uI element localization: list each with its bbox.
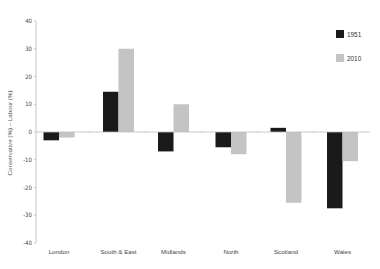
bar-chart: 403020100-10-20-30-40 LondonSouth & East… [0, 0, 380, 269]
bar-1951 [158, 132, 174, 151]
x-category-label: Midlands [161, 248, 186, 255]
bar-1951 [216, 132, 232, 147]
bar-1951 [271, 128, 287, 132]
bar-2010 [119, 49, 135, 132]
bar-group-south-east [103, 49, 134, 132]
y-tick-label: 10 [25, 100, 32, 107]
bar-2010 [343, 132, 359, 161]
bar-group-north [216, 132, 247, 154]
legend-label: 1951 [347, 31, 362, 38]
bar-group-wales [327, 132, 358, 208]
bar-group-scotland [271, 128, 302, 203]
x-axis-labels: LondonSouth & EastMidlandsNorthScotlandW… [49, 248, 351, 255]
y-tick-label: 40 [25, 17, 32, 24]
y-tick-label: -20 [23, 184, 32, 191]
y-tick-label: -30 [23, 211, 32, 218]
legend-label: 2010 [347, 55, 362, 62]
bar-1951 [327, 132, 343, 208]
y-tick-label: -40 [23, 239, 32, 246]
x-category-label: London [49, 248, 70, 255]
bar-group-midlands [158, 104, 189, 151]
x-category-label: North [223, 248, 239, 255]
y-axis: 403020100-10-20-30-40 [23, 17, 36, 246]
legend-swatch-2010 [336, 54, 344, 62]
bar-1951 [44, 132, 60, 140]
zero-baseline [36, 131, 370, 134]
bar-group-london [44, 132, 75, 140]
bar-2010 [231, 132, 247, 154]
bar-2010 [59, 132, 75, 138]
y-tick-label: 20 [25, 73, 32, 80]
legend-swatch-1951 [336, 30, 344, 38]
y-axis-title: Conservative (%) – Labour (%) [6, 91, 13, 176]
x-category-label: Wales [334, 248, 351, 255]
y-tick-label: 30 [25, 45, 32, 52]
x-category-label: South & East [100, 248, 136, 255]
bar-2010 [174, 104, 190, 132]
y-tick-label: -10 [23, 156, 32, 163]
legend: 19512010 [336, 30, 362, 62]
bar-1951 [103, 92, 119, 132]
bar-2010 [286, 132, 302, 203]
y-tick-label: 0 [29, 128, 33, 135]
bar-groups [44, 49, 359, 209]
x-category-label: Scotland [274, 248, 299, 255]
